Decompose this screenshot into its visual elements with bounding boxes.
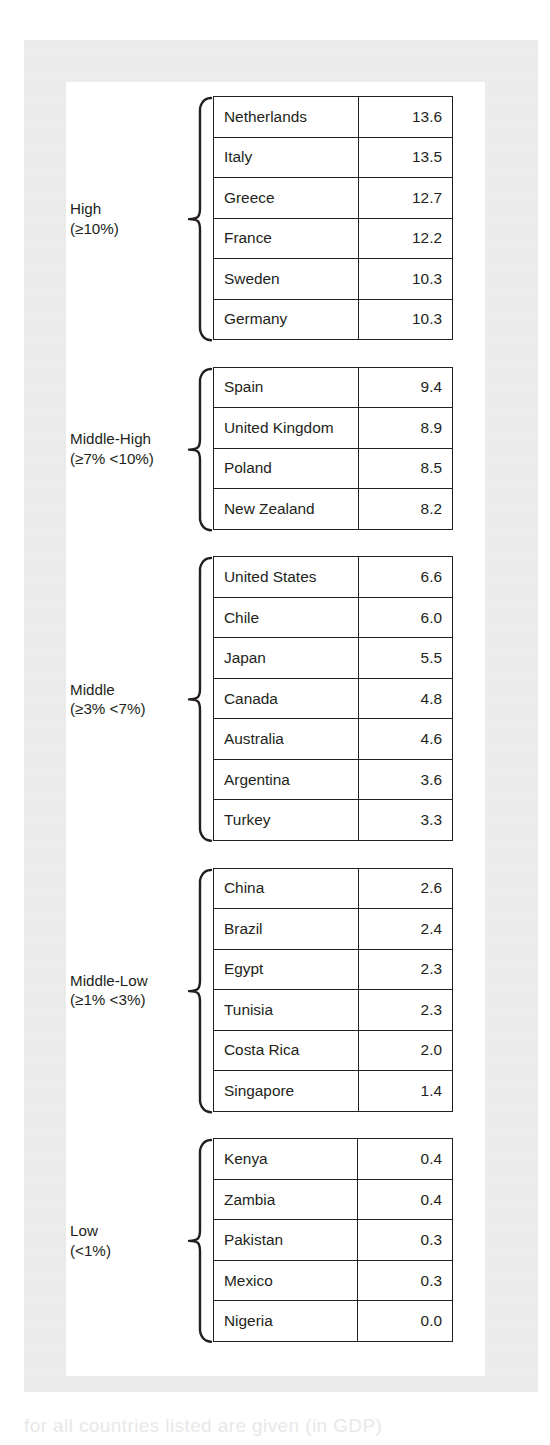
group-label-range: (≥7% <10%)	[70, 449, 188, 469]
caption-fragment: for all countries listed are given (in G…	[24, 1415, 538, 1445]
table-row: Brazil2.4	[214, 909, 453, 950]
value-cell: 0.3	[358, 1220, 453, 1261]
country-cell: Australia	[214, 719, 359, 760]
country-cell: Netherlands	[214, 97, 359, 138]
group-label: Middle(≥3% <7%)	[70, 680, 188, 719]
table-row: Tunisia2.3	[214, 990, 453, 1031]
table-row: Italy13.5	[214, 137, 453, 178]
figure-page: High(≥10%)Netherlands13.6Italy13.5Greece…	[0, 0, 550, 1445]
value-cell: 2.3	[358, 949, 452, 990]
group-label: Middle-High(≥7% <10%)	[70, 429, 188, 468]
curly-brace-icon	[185, 367, 213, 532]
table-row: Mexico0.3	[214, 1260, 453, 1301]
country-cell: China	[214, 868, 359, 909]
country-cell: Kenya	[214, 1139, 358, 1180]
group-label-name: Middle-High	[70, 429, 188, 449]
country-cell: Mexico	[214, 1260, 358, 1301]
group-label: Low(<1%)	[70, 1221, 188, 1260]
country-cell: United States	[214, 557, 359, 598]
table-row: France12.2	[214, 218, 453, 259]
data-table: Spain9.4United Kingdom8.9Poland8.5New Ze…	[213, 367, 453, 530]
curly-brace-icon	[185, 1138, 213, 1344]
table-row: United Kingdom8.9	[214, 408, 453, 449]
table-row: Greece12.7	[214, 178, 453, 219]
table-row: Kenya0.4	[214, 1139, 453, 1180]
table-row: Chile6.0	[214, 597, 453, 638]
group-label-range: (≥10%)	[70, 219, 188, 239]
country-cell: United Kingdom	[214, 408, 359, 449]
table-group: Middle(≥3% <7%)United States6.6Chile6.0J…	[66, 556, 485, 843]
value-cell: 3.3	[358, 800, 452, 841]
country-cell: Costa Rica	[214, 1030, 359, 1071]
value-cell: 13.6	[358, 97, 452, 138]
value-cell: 3.6	[358, 759, 452, 800]
value-cell: 2.4	[358, 909, 452, 950]
country-cell: Italy	[214, 137, 359, 178]
table-group: High(≥10%)Netherlands13.6Italy13.5Greece…	[66, 96, 485, 342]
value-cell: 2.6	[358, 868, 452, 909]
country-cell: Brazil	[214, 909, 359, 950]
table-row: Costa Rica2.0	[214, 1030, 453, 1071]
table-group: Middle-High(≥7% <10%)Spain9.4United King…	[66, 367, 485, 532]
value-cell: 8.9	[358, 408, 452, 449]
country-cell: Turkey	[214, 800, 359, 841]
curly-brace-icon	[185, 868, 213, 1114]
group-label-name: Middle	[70, 680, 188, 700]
data-table: China2.6Brazil2.4Egypt2.3Tunisia2.3Costa…	[213, 868, 453, 1112]
value-cell: 10.3	[358, 299, 452, 340]
country-cell: Chile	[214, 597, 359, 638]
table-row: Singapore1.4	[214, 1071, 453, 1112]
group-label-range: (≥3% <7%)	[70, 699, 188, 719]
value-cell: 8.5	[358, 448, 452, 489]
country-cell: Japan	[214, 638, 359, 679]
country-cell: Egypt	[214, 949, 359, 990]
value-cell: 0.4	[358, 1139, 453, 1180]
table-row: Australia4.6	[214, 719, 453, 760]
table-row: Germany10.3	[214, 299, 453, 340]
table-group: Low(<1%)Kenya0.4Zambia0.4Pakistan0.3Mexi…	[66, 1138, 485, 1344]
country-cell: Argentina	[214, 759, 359, 800]
table-row: Netherlands13.6	[214, 97, 453, 138]
country-cell: Poland	[214, 448, 359, 489]
value-cell: 8.2	[358, 489, 452, 530]
country-cell: Spain	[214, 367, 359, 408]
table-row: Canada4.8	[214, 678, 453, 719]
table-row: Sweden10.3	[214, 259, 453, 300]
group-label-name: Middle-Low	[70, 971, 188, 991]
table-row: Argentina3.6	[214, 759, 453, 800]
value-cell: 4.6	[358, 719, 452, 760]
data-table: Netherlands13.6Italy13.5Greece12.7France…	[213, 96, 453, 340]
group-label-name: High	[70, 199, 188, 219]
value-cell: 12.2	[358, 218, 452, 259]
table-row: Egypt2.3	[214, 949, 453, 990]
figure-card: High(≥10%)Netherlands13.6Italy13.5Greece…	[66, 82, 485, 1376]
table-row: Poland8.5	[214, 448, 453, 489]
country-cell: New Zealand	[214, 489, 359, 530]
table-row: Spain9.4	[214, 367, 453, 408]
country-cell: Pakistan	[214, 1220, 358, 1261]
data-table: United States6.6Chile6.0Japan5.5Canada4.…	[213, 556, 453, 841]
group-label: Middle-Low(≥1% <3%)	[70, 971, 188, 1010]
value-cell: 0.4	[358, 1179, 453, 1220]
value-cell: 12.7	[358, 178, 452, 219]
value-cell: 13.5	[358, 137, 452, 178]
value-cell: 6.6	[358, 557, 452, 598]
country-cell: Canada	[214, 678, 359, 719]
table-row: Turkey3.3	[214, 800, 453, 841]
value-cell: 4.8	[358, 678, 452, 719]
value-cell: 2.0	[358, 1030, 452, 1071]
country-cell: Nigeria	[214, 1301, 358, 1342]
table-row: United States6.6	[214, 557, 453, 598]
country-cell: Tunisia	[214, 990, 359, 1031]
value-cell: 0.0	[358, 1301, 453, 1342]
curly-brace-icon	[185, 556, 213, 843]
table-row: China2.6	[214, 868, 453, 909]
table-group: Middle-Low(≥1% <3%)China2.6Brazil2.4Egyp…	[66, 868, 485, 1114]
value-cell: 2.3	[358, 990, 452, 1031]
group-label: High(≥10%)	[70, 199, 188, 238]
country-cell: France	[214, 218, 359, 259]
country-cell: Singapore	[214, 1071, 359, 1112]
group-label-name: Low	[70, 1221, 188, 1241]
value-cell: 1.4	[358, 1071, 452, 1112]
value-cell: 9.4	[358, 367, 452, 408]
